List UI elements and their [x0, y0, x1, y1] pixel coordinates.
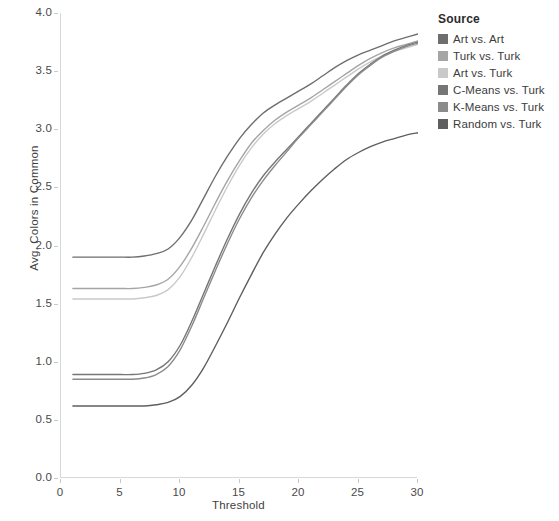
x-tick-label: 0	[40, 486, 80, 498]
legend-item-label: Random vs. Turk	[453, 118, 541, 130]
x-tick-label: 30	[397, 486, 437, 498]
legend-item-label: Art vs. Turk	[453, 67, 512, 79]
legend-item[interactable]: C-Means vs. Turk	[438, 81, 559, 98]
x-tick-label: 10	[159, 486, 199, 498]
legend-item[interactable]: Random vs. Turk	[438, 115, 559, 132]
y-axis-title: Avg. Colors in Common	[28, 98, 40, 318]
x-tick-mark	[358, 479, 359, 483]
y-tick-mark	[54, 304, 58, 305]
legend-swatch-icon	[438, 51, 448, 61]
y-tick-mark	[54, 187, 58, 188]
plot-area	[60, 13, 417, 478]
y-tick-mark	[54, 246, 58, 247]
y-tick-mark	[54, 71, 58, 72]
y-axis-title-wrap: Avg. Colors in Common	[12, 0, 32, 465]
series-line	[73, 44, 418, 299]
plot-lines	[61, 13, 418, 478]
x-tick-mark	[120, 479, 121, 483]
y-tick-label: 0.0	[6, 472, 52, 483]
y-tick-mark	[54, 13, 58, 14]
legend-items: Art vs. ArtTurk vs. TurkArt vs. TurkC-Me…	[438, 30, 559, 132]
legend-item[interactable]: K-Means vs. Turk	[438, 98, 559, 115]
legend-item-label: Art vs. Art	[453, 33, 504, 45]
x-tick-mark	[179, 479, 180, 483]
y-tick-mark	[54, 478, 58, 479]
x-tick-label: 15	[219, 486, 259, 498]
series-line	[73, 43, 418, 379]
y-tick-mark	[54, 362, 58, 363]
legend-item[interactable]: Turk vs. Turk	[438, 47, 559, 64]
legend-swatch-icon	[438, 34, 448, 44]
y-tick-mark	[54, 420, 58, 421]
legend-item-label: C-Means vs. Turk	[453, 84, 545, 96]
x-tick-mark	[417, 479, 418, 483]
legend: Source Art vs. ArtTurk vs. TurkArt vs. T…	[438, 12, 559, 132]
x-tick-mark	[60, 479, 61, 483]
legend-swatch-icon	[438, 85, 448, 95]
x-tick-label: 25	[338, 486, 378, 498]
legend-swatch-icon	[438, 119, 448, 129]
legend-item-label: Turk vs. Turk	[453, 50, 520, 62]
legend-item-label: K-Means vs. Turk	[453, 101, 544, 113]
y-tick-mark	[54, 129, 58, 130]
x-axis-ticks: 051015202530	[60, 479, 420, 499]
x-tick-mark	[239, 479, 240, 483]
x-axis-title: Threshold	[60, 499, 417, 511]
legend-item[interactable]: Art vs. Art	[438, 30, 559, 47]
legend-swatch-icon	[438, 102, 448, 112]
chart-figure: 0.00.51.01.52.02.53.03.54.0 Avg. Colors …	[0, 0, 559, 521]
x-tick-mark	[298, 479, 299, 483]
series-line	[73, 133, 418, 406]
legend-title: Source	[438, 12, 559, 26]
x-tick-label: 20	[278, 486, 318, 498]
series-line	[73, 41, 418, 289]
x-tick-label: 5	[100, 486, 140, 498]
legend-item[interactable]: Art vs. Turk	[438, 64, 559, 81]
legend-swatch-icon	[438, 68, 448, 78]
